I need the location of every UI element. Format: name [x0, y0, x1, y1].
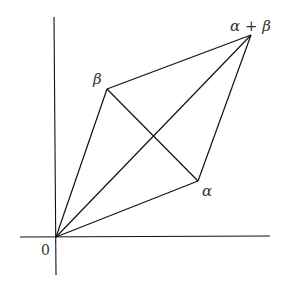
alpha-label: α — [202, 182, 212, 200]
edge-beta-sum — [107, 35, 251, 89]
parallelogram-diagram: 0 β α α + β — [0, 0, 306, 285]
edge-alpha-sum — [198, 35, 251, 181]
origin-label: 0 — [41, 242, 50, 258]
diagonal-beta-alpha — [107, 89, 198, 181]
beta-label: β — [92, 70, 102, 88]
edge-origin-beta — [56, 89, 107, 237]
alpha-plus-beta-label: α + β — [230, 17, 271, 35]
edge-origin-alpha — [56, 181, 198, 237]
